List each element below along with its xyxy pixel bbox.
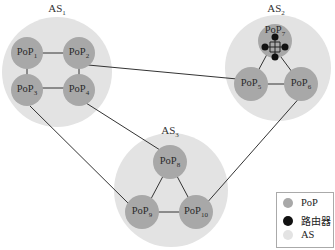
pop-label: PoP7	[255, 24, 295, 38]
as1-label: AS1	[37, 2, 77, 17]
legend-item-router: 路由器	[283, 213, 331, 228]
router-icon	[282, 44, 289, 51]
as1-region	[2, 17, 112, 127]
as-swatch-icon	[283, 230, 293, 240]
pop-label: PoP5	[231, 77, 271, 91]
as2-label: AS2	[256, 2, 296, 17]
pop-label: PoP8	[150, 155, 190, 169]
pop-label: PoP4	[59, 83, 99, 97]
pop-swatch-icon	[283, 198, 293, 208]
router-icon	[262, 44, 269, 51]
link-as1-as2	[88, 65, 248, 80]
link-pop4-as3	[86, 103, 160, 150]
pop-label: PoP1	[7, 46, 47, 60]
as3-label: AS3	[150, 124, 190, 139]
router-swatch-icon	[283, 216, 293, 226]
pop-label: PoP6	[281, 77, 321, 91]
pop-label: PoP10	[176, 205, 216, 219]
router-icon	[272, 54, 279, 61]
legend: PoP 路由器 AS	[276, 192, 334, 248]
pop-label: PoP9	[122, 205, 162, 219]
pop-label: PoP2	[59, 46, 99, 60]
legend-item-pop: PoP	[283, 197, 318, 208]
legend-item-as: AS	[283, 229, 314, 240]
pop-label: PoP3	[7, 83, 47, 97]
